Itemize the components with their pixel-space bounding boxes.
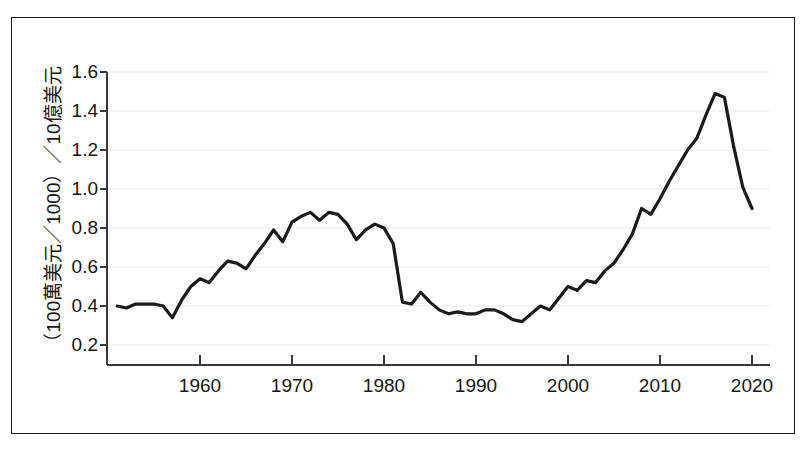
data-series-line: [117, 93, 752, 321]
y-tick-label: 0.2: [40, 334, 98, 356]
gridlines: [107, 72, 770, 345]
x-tick-label: 2000: [547, 375, 589, 397]
y-tick-label: 1.6: [40, 61, 98, 83]
axis-lines: [107, 72, 770, 365]
line-chart: （100萬美元／1000）／10億美元 1.61.41.21.00.80.60.…: [0, 0, 809, 451]
y-tick-label: 1.4: [40, 100, 98, 122]
y-tick-label: 0.6: [40, 256, 98, 278]
x-tick-label: 2020: [731, 375, 773, 397]
x-tick-label: 2010: [639, 375, 681, 397]
y-tick-label: 1.2: [40, 139, 98, 161]
x-tick-label: 1980: [363, 375, 405, 397]
y-tick-label: 0.8: [40, 217, 98, 239]
x-tick-label: 1970: [271, 375, 313, 397]
x-tick-label: 1960: [179, 375, 221, 397]
axis-ticks: [100, 72, 752, 365]
y-tick-label: 0.4: [40, 295, 98, 317]
x-tick-label: 1990: [455, 375, 497, 397]
y-tick-label: 1.0: [40, 178, 98, 200]
